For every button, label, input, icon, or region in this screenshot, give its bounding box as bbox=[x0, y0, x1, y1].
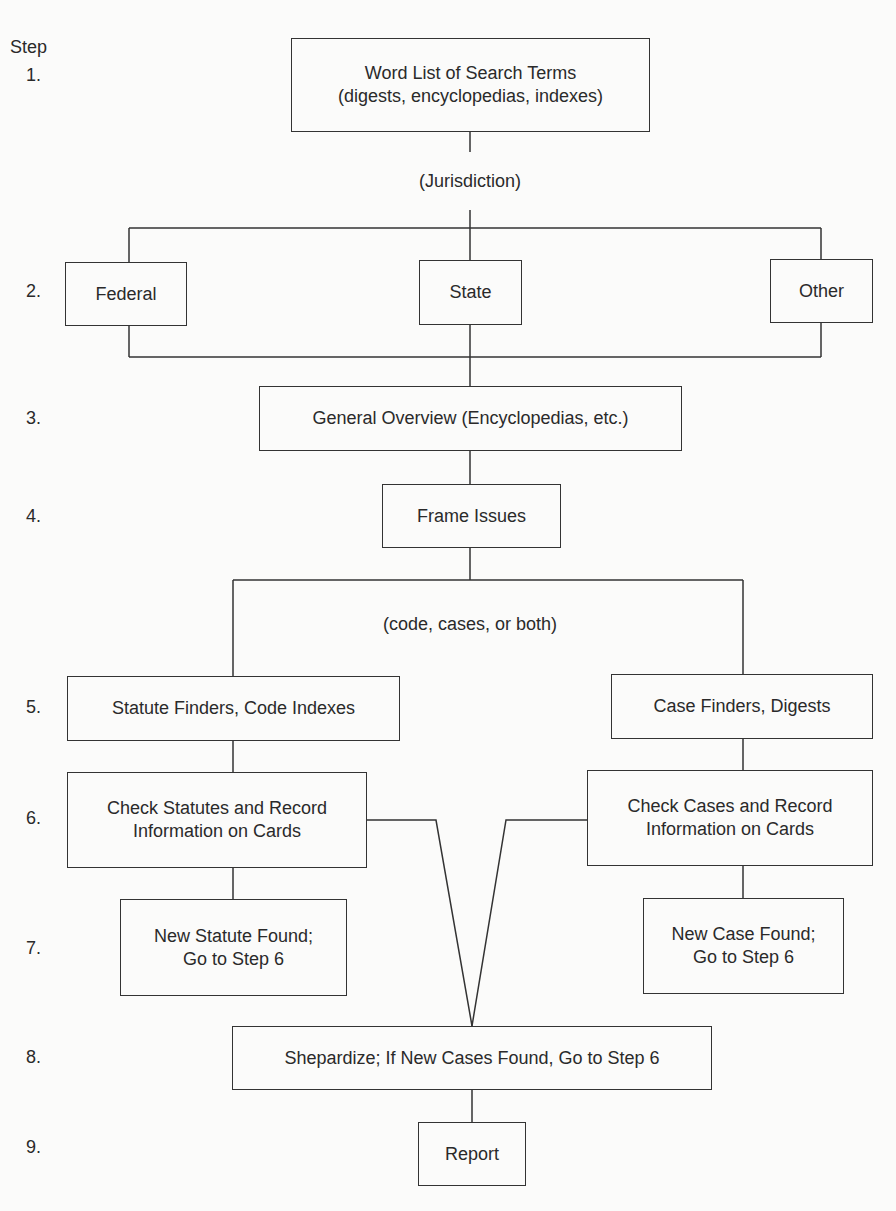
step-number-2: 2. bbox=[26, 281, 41, 302]
new-case-box: New Case Found; Go to Step 6 bbox=[643, 898, 844, 994]
step-number-5: 5. bbox=[26, 697, 41, 718]
code-cases-label: (code, cases, or both) bbox=[383, 614, 557, 635]
check-cases-text: Check Cases and Record Information on Ca… bbox=[627, 795, 832, 841]
statute-finders-text: Statute Finders, Code Indexes bbox=[112, 697, 355, 720]
general-overview-text: General Overview (Encyclopedias, etc.) bbox=[312, 407, 628, 430]
state-text: State bbox=[449, 281, 491, 304]
step-number-9: 9. bbox=[26, 1137, 41, 1158]
other-box: Other bbox=[770, 259, 873, 323]
case-finders-text: Case Finders, Digests bbox=[653, 695, 830, 718]
federal-box: Federal bbox=[65, 262, 187, 326]
step-number-8: 8. bbox=[26, 1047, 41, 1068]
federal-text: Federal bbox=[95, 283, 156, 306]
other-text: Other bbox=[799, 280, 844, 303]
step-number-4: 4. bbox=[26, 506, 41, 527]
frame-issues-text: Frame Issues bbox=[417, 505, 526, 528]
jurisdiction-label: (Jurisdiction) bbox=[419, 171, 521, 192]
new-case-text: New Case Found; Go to Step 6 bbox=[671, 923, 815, 969]
step-number-1: 1. bbox=[26, 65, 41, 86]
state-box: State bbox=[419, 260, 522, 325]
case-finders-box: Case Finders, Digests bbox=[611, 674, 873, 739]
general-overview-box: General Overview (Encyclopedias, etc.) bbox=[259, 386, 682, 451]
check-cases-box: Check Cases and Record Information on Ca… bbox=[587, 770, 873, 866]
frame-issues-box: Frame Issues bbox=[382, 484, 561, 548]
step-header: Step bbox=[10, 37, 47, 58]
new-statute-box: New Statute Found; Go to Step 6 bbox=[120, 899, 347, 996]
step-number-3: 3. bbox=[26, 408, 41, 429]
word-list-box: Word List of Search Terms (digests, ency… bbox=[291, 38, 650, 132]
shepardize-box: Shepardize; If New Cases Found, Go to St… bbox=[232, 1026, 712, 1090]
step-number-6: 6. bbox=[26, 808, 41, 829]
shepardize-text: Shepardize; If New Cases Found, Go to St… bbox=[284, 1047, 659, 1070]
word-list-text: Word List of Search Terms (digests, ency… bbox=[338, 62, 603, 108]
statute-finders-box: Statute Finders, Code Indexes bbox=[67, 676, 400, 741]
report-text: Report bbox=[445, 1143, 499, 1166]
report-box: Report bbox=[418, 1122, 526, 1186]
step-number-7: 7. bbox=[26, 938, 41, 959]
check-statutes-text: Check Statutes and Record Information on… bbox=[107, 797, 327, 843]
check-statutes-box: Check Statutes and Record Information on… bbox=[67, 772, 367, 868]
new-statute-text: New Statute Found; Go to Step 6 bbox=[154, 925, 313, 971]
